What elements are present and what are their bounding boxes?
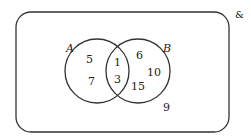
value-only-b-2: 10 [147,67,161,78]
value-only-a-1: 5 [86,54,93,65]
universal-set-rect [16,12,229,132]
value-intersection-1: 1 [114,57,121,68]
value-intersection-2: 3 [114,74,121,85]
venn-diagram [0,0,251,138]
set-b-label: B [163,43,171,54]
value-outside: 9 [163,102,170,113]
universal-set-symbol: & [235,10,244,20]
value-only-a-2: 7 [88,76,95,87]
set-a-label: A [66,43,74,54]
set-a-circle [65,39,129,103]
value-only-b-1: 6 [136,50,143,61]
value-only-b-3: 15 [131,81,145,92]
